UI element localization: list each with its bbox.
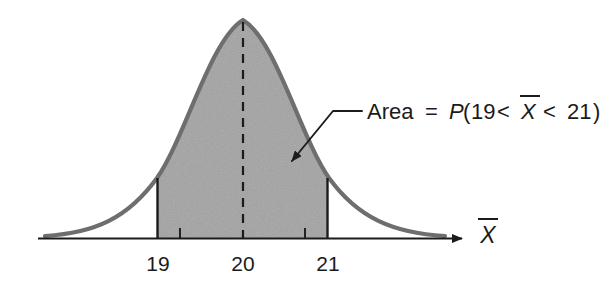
x-tick-label-19: 19 [146, 252, 169, 275]
annotation-close-paren: ) [593, 99, 600, 124]
x-axis-label-group: X [478, 219, 498, 248]
x-tick-label-21: 21 [316, 252, 339, 275]
annotation-open-paren: ( [463, 99, 471, 124]
area-annotation: Area = P ( 19 < X < 21 ) [367, 96, 600, 124]
shaded-area-region [45, 20, 445, 238]
annotation-area-label: Area [367, 99, 414, 124]
annotation-less-than-first: < [497, 99, 510, 124]
annotation-variable: X [520, 99, 537, 124]
figure-container: 19 20 21 X Area = P ( 19 < X < 21 ) [0, 0, 616, 283]
annotation-equals: = [425, 99, 438, 124]
annotation-less-than-second: < [543, 99, 556, 124]
shaded-area-fill [45, 20, 445, 238]
annotation-prob-symbol: P [449, 99, 464, 124]
annotation-lower-bound: 19 [471, 99, 495, 124]
x-tick-label-20: 20 [231, 252, 254, 275]
x-axis-label: X [479, 222, 497, 248]
annotation-upper-bound: 21 [567, 99, 591, 124]
normal-curve-figure: 19 20 21 X Area = P ( 19 < X < 21 ) [0, 0, 616, 283]
